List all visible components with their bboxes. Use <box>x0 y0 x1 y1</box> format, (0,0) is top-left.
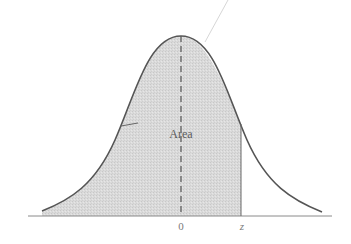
normal-curve-diagram: Area 0 z <box>0 0 351 244</box>
tick-label-z: z <box>239 220 245 232</box>
stray-faint-line <box>205 0 228 42</box>
area-label: Area <box>169 127 193 141</box>
shaded-area-region <box>42 36 241 216</box>
tick-label-zero: 0 <box>178 220 184 232</box>
normal-distribution-figure: Area 0 z <box>0 0 351 244</box>
